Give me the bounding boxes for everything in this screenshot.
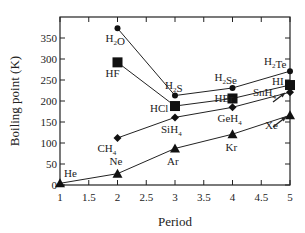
point-label: He: [64, 167, 77, 179]
square-marker: [170, 101, 180, 111]
point-label: H2S: [165, 79, 183, 94]
x-tick-label: 5: [287, 191, 293, 203]
point-label: H2Se: [215, 71, 238, 86]
triangle-marker: [113, 169, 123, 178]
x-tick-label: 3.5: [197, 191, 211, 203]
x-tick-label: 1.5: [82, 191, 96, 203]
diamond-marker: [114, 134, 122, 142]
x-tick-label: 2: [115, 191, 121, 203]
y-tick-label: 50: [46, 158, 58, 170]
point-label: HBr: [215, 92, 234, 104]
point-label: SiH4: [161, 123, 182, 138]
circle-marker: [287, 68, 293, 74]
circle-marker: [115, 25, 121, 31]
triangle-marker: [285, 110, 295, 119]
triangle-marker: [228, 129, 238, 138]
point-label: GeH4: [218, 112, 243, 127]
y-axis-title: Boiling point (K): [7, 56, 22, 146]
y-tick-label: 300: [41, 53, 58, 65]
boiling-point-chart: 11.522.533.544.55050100150200250300350 H…: [0, 0, 305, 233]
y-tick-label: 150: [41, 116, 58, 128]
y-tick-label: 100: [41, 137, 58, 149]
point-label: HI: [272, 75, 284, 87]
x-tick-label: 4.5: [254, 191, 268, 203]
point-label: HCl: [150, 102, 168, 114]
point-label: Kr: [226, 141, 238, 153]
x-axis-title: Period: [158, 214, 192, 229]
y-tick-label: 250: [41, 74, 58, 86]
point-label: H2O: [106, 32, 125, 47]
x-tick-label: 3: [172, 191, 178, 203]
x-tick-label: 1: [57, 191, 63, 203]
x-tick-label: 2.5: [139, 191, 153, 203]
square-marker: [113, 57, 123, 67]
diamond-marker: [229, 103, 237, 111]
point-label: Ar: [167, 155, 179, 167]
y-tick-label: 200: [41, 95, 58, 107]
point-label: Ne: [110, 155, 123, 167]
x-tick-label: 4: [230, 191, 236, 203]
point-label: H2Te: [264, 55, 286, 70]
diamond-marker: [171, 113, 179, 121]
y-tick-label: 350: [41, 32, 58, 44]
point-label: HF: [106, 67, 120, 79]
